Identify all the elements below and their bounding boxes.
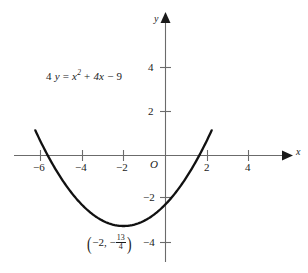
x-tick-label-neg4: −4 (75, 162, 87, 173)
vertex-fraction: 134 (116, 234, 126, 252)
y-tick-label-2: 2 (148, 106, 154, 117)
equation-constant: 9 (117, 70, 123, 82)
equation-minus: − (107, 70, 113, 82)
x-tick-label-2: 2 (204, 162, 210, 173)
equation-plus: + (84, 70, 90, 82)
y-axis-label: y (154, 14, 158, 24)
vertex-fraction-denominator: 4 (116, 242, 126, 251)
parabola-figure: −6 −4 −2 2 4 4 2 −2 −4 O x y 4 y = x2 + … (0, 0, 308, 273)
x-tick-label-neg6: −6 (33, 162, 45, 173)
vertex-fraction-numerator: 13 (116, 234, 126, 242)
equation-annotation: 4 y = x2 + 4x − 9 (46, 71, 122, 82)
equation-lead-coefficient: 4 (46, 70, 52, 82)
vertex-x-value: −2, (92, 236, 106, 248)
x-tick-label-neg2: −2 (116, 162, 128, 173)
y-tick-label-neg2: −2 (143, 192, 155, 203)
origin-label: O (150, 159, 158, 170)
plot-canvas (0, 0, 308, 273)
y-tick-label-neg4: −4 (143, 237, 155, 248)
equation-exponent: 2 (77, 68, 81, 77)
equation-y-var: y (55, 70, 60, 82)
equation-equals: = (63, 70, 69, 82)
parabola-curve (35, 130, 211, 226)
x-tick-label-4: 4 (245, 162, 251, 173)
x-axis-label: x (296, 147, 300, 157)
y-axis (161, 12, 171, 262)
vertex-annotation: (−2, −134) (86, 234, 132, 252)
y-tick-label-4: 4 (148, 62, 154, 73)
equation-linear-term: 4x (93, 70, 104, 82)
